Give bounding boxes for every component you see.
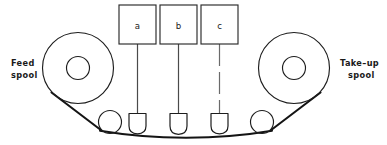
feed-spool[interactable] — [43, 33, 114, 104]
feed-spool-label: Feed spool — [11, 58, 38, 80]
diagram-canvas: a b c Feed spool Take–up spool — [0, 0, 387, 145]
feed-spool-outer-circle — [43, 33, 114, 104]
feed-spool-hub-circle — [67, 57, 90, 80]
right-guide-roller[interactable] — [251, 111, 274, 134]
head-assembly-c[interactable]: c — [201, 5, 238, 134]
head-box-label-c: c — [217, 21, 222, 31]
head-assembly-a[interactable]: a — [119, 5, 156, 134]
head-box-label-b: b — [176, 21, 181, 31]
tape-transport-diagram: a b c Feed spool Take–up spool — [0, 0, 387, 145]
takeup-spool-label: Take–up spool — [340, 58, 379, 80]
takeup-spool[interactable] — [259, 33, 330, 104]
head-probe-c — [211, 114, 228, 134]
left-guide-roller[interactable] — [99, 111, 122, 134]
takeup-spool-hub-circle — [283, 57, 306, 80]
takeup-spool-outer-circle — [259, 33, 330, 104]
head-probe-a — [129, 114, 146, 134]
takeup-spool-label-line2: spool — [348, 70, 375, 80]
feed-spool-label-line1: Feed — [11, 58, 35, 68]
head-probe-b — [170, 114, 187, 135]
feed-spool-label-line2: spool — [11, 70, 38, 80]
head-assembly-b[interactable]: b — [160, 5, 197, 134]
takeup-spool-label-line1: Take–up — [340, 58, 379, 68]
tape-segment-across-heads — [100, 131, 272, 138]
head-box-label-a: a — [135, 21, 140, 31]
